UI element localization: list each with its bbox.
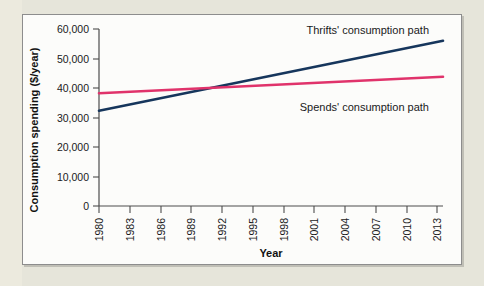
x-tick-label: 1980 (93, 218, 105, 242)
figure-container: Consumption spending ($/year) 0 10,000 2… (0, 0, 484, 286)
x-tick-label: 2013 (431, 218, 443, 242)
x-tick-label: 1989 (185, 218, 197, 242)
x-tick-label: 2010 (401, 218, 413, 242)
x-tick-label: 1992 (216, 218, 228, 242)
y-tick-label: 50,000 (57, 53, 89, 65)
annotation-spends: Spends' consumption path (300, 101, 429, 113)
x-tick-label: 1998 (278, 218, 290, 242)
y-tick-label: 20,000 (57, 141, 89, 153)
line-chart: Consumption spending ($/year) 0 10,000 2… (23, 15, 461, 264)
y-tick-label: 10,000 (57, 171, 89, 183)
y-axis-title: Consumption spending ($/year) (28, 47, 40, 212)
x-tick-label: 1986 (155, 218, 167, 242)
x-axis-title: Year (259, 247, 283, 259)
y-tick-label: 40,000 (57, 82, 89, 94)
x-tick-label: 2004 (339, 218, 351, 242)
y-tick-label: 0 (83, 200, 89, 212)
x-tick-label: 2007 (370, 218, 382, 242)
y-tick-label: 30,000 (57, 112, 89, 124)
y-tick-group: 0 10,000 20,000 30,000 40,000 50,000 60,… (57, 23, 99, 212)
x-tick-label: 2001 (308, 218, 320, 242)
x-tick-label: 1995 (247, 218, 259, 242)
x-tick-group: 1980 1983 1986 1989 1992 1995 1998 2001 … (93, 206, 443, 241)
x-tick-label: 1983 (124, 218, 136, 242)
chart-panel: Consumption spending ($/year) 0 10,000 2… (22, 14, 462, 265)
annotation-thrifts: Thrifts' consumption path (306, 24, 429, 36)
y-tick-label: 60,000 (57, 23, 89, 35)
series-line-spends (99, 77, 443, 94)
